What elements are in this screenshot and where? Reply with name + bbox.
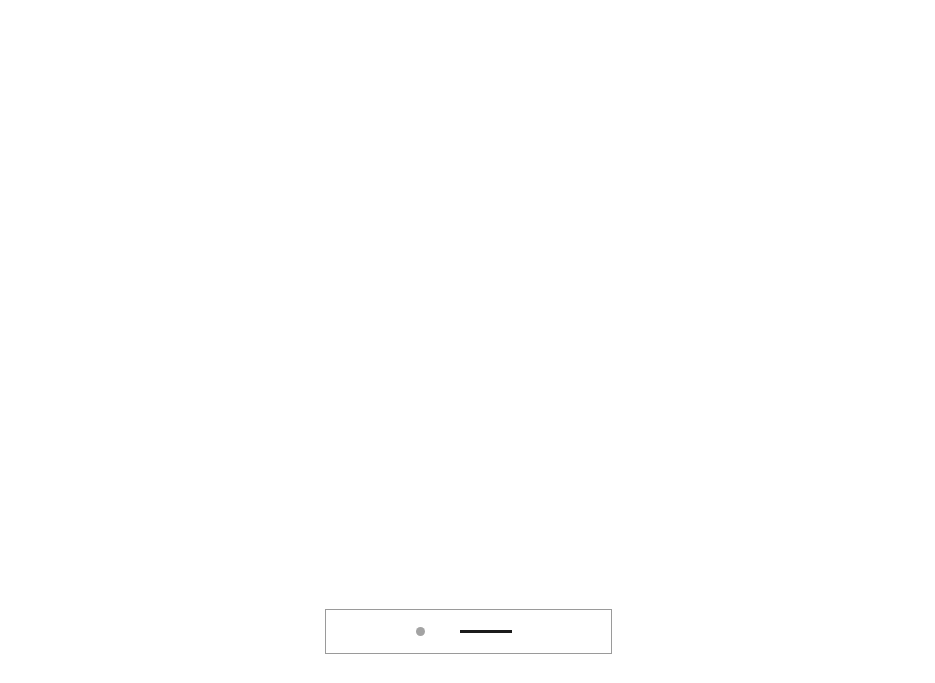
legend-item-scatter (416, 627, 434, 636)
scatter-plot-developed (0, 0, 470, 600)
chart-legend (325, 609, 612, 654)
figure-root (0, 0, 935, 683)
scatter-plot-developing (465, 0, 935, 600)
line-marker-icon (460, 630, 512, 633)
dot-marker-icon (416, 627, 425, 636)
legend-item-fitted (460, 630, 521, 633)
